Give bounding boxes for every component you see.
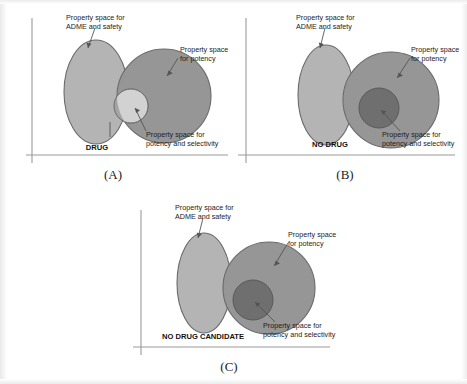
panel-b-adme-label-line1: Property space for (296, 13, 355, 22)
panel-a-adme-label-line2: ADME and safety (66, 22, 122, 31)
panel-b-selectivity-circle (359, 88, 399, 128)
figure-container: Property space for ADME and safety Prope… (0, 0, 467, 384)
panel-c-selectivity-label-line2: potency and selectivity (263, 330, 336, 339)
panel-c-selectivity-label-line1: Property space for (263, 321, 322, 330)
panel-c-adme-label-line2: ADME and safety (175, 212, 231, 221)
panel-b-adme-label-line2: ADME and safety (296, 22, 352, 31)
panel-b-selectivity-label-line2: potency and selectivity (382, 139, 455, 148)
panel-b-selectivity-label-line1: Property space for (382, 130, 441, 139)
panel-b-caption: (B) (336, 167, 353, 182)
panel-b-potency-label-line1: Property space (411, 45, 459, 54)
panel-b-potency-label-line2: for potency (411, 54, 447, 63)
panel-b-outcome-label: NO DRUG (312, 140, 348, 149)
panel-c-potency-label-line1: Property space (288, 230, 336, 239)
panel-c-potency-label-line2: for potency (288, 239, 324, 248)
panel-a-outcome-label: DRUG (86, 143, 108, 152)
panel-a-potency-label-line1: Property space (180, 45, 228, 54)
panel-a-selectivity-label-line1: Property space for (146, 130, 205, 139)
panel-a-potency-label-line2: for potency (180, 54, 216, 63)
panel-a-caption: (A) (104, 167, 122, 182)
panel-c-adme-label-line1: Property space for (175, 203, 234, 212)
property-space-figure: Property space for ADME and safety Prope… (0, 0, 467, 384)
panel-a-selectivity-label-line2: potency and selectivity (146, 139, 219, 148)
panel-a-adme-label-line1: Property space for (66, 13, 125, 22)
panel-c-outcome-label: NO DRUG CANDIDATE (162, 332, 244, 341)
panel-c-caption: (C) (220, 359, 237, 374)
